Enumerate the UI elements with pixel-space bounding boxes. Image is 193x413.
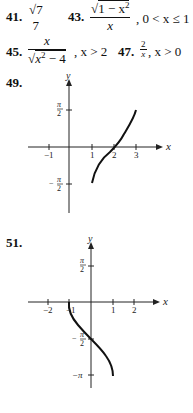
svg-text:1: 1 bbox=[111, 305, 116, 315]
svg-text:π: π bbox=[57, 175, 62, 184]
svg-text:−: − bbox=[49, 179, 54, 188]
svg-text:−π: −π bbox=[72, 370, 83, 380]
graph-49 bbox=[28, 79, 163, 213]
svg-text:−2: −2 bbox=[43, 305, 53, 315]
figures-canvas: x y −1 1 2 3 π 2 − π 2 x y −2 −1 1 2 π bbox=[0, 0, 193, 413]
svg-text:π: π bbox=[80, 256, 85, 265]
svg-text:−1: −1 bbox=[44, 150, 54, 160]
svg-text:2: 2 bbox=[80, 339, 84, 348]
svg-text:2: 2 bbox=[57, 109, 61, 118]
svg-text:2: 2 bbox=[80, 265, 84, 274]
svg-text:y: y bbox=[87, 233, 93, 244]
svg-text:x: x bbox=[165, 140, 171, 152]
svg-text:−: − bbox=[72, 334, 77, 343]
graph-49-x-arrow-icon bbox=[156, 144, 163, 150]
svg-text:1: 1 bbox=[90, 150, 95, 160]
graph-51-labels: x y −2 −1 1 2 π 2 − π 2 −π bbox=[43, 233, 168, 380]
figure-51-label: 51. bbox=[6, 235, 22, 251]
svg-text:x: x bbox=[162, 295, 168, 307]
svg-text:3: 3 bbox=[134, 150, 139, 160]
graph-51 bbox=[28, 242, 160, 388]
svg-text:2: 2 bbox=[112, 150, 117, 160]
svg-text:−1: −1 bbox=[66, 305, 76, 315]
svg-text:π: π bbox=[57, 100, 62, 109]
graph-51-x-arrow-icon bbox=[153, 299, 160, 305]
svg-text:y: y bbox=[65, 70, 71, 81]
svg-text:2: 2 bbox=[132, 305, 137, 315]
graph-49-labels: x y −1 1 2 3 π 2 − π 2 bbox=[44, 70, 171, 193]
svg-text:2: 2 bbox=[57, 184, 61, 193]
